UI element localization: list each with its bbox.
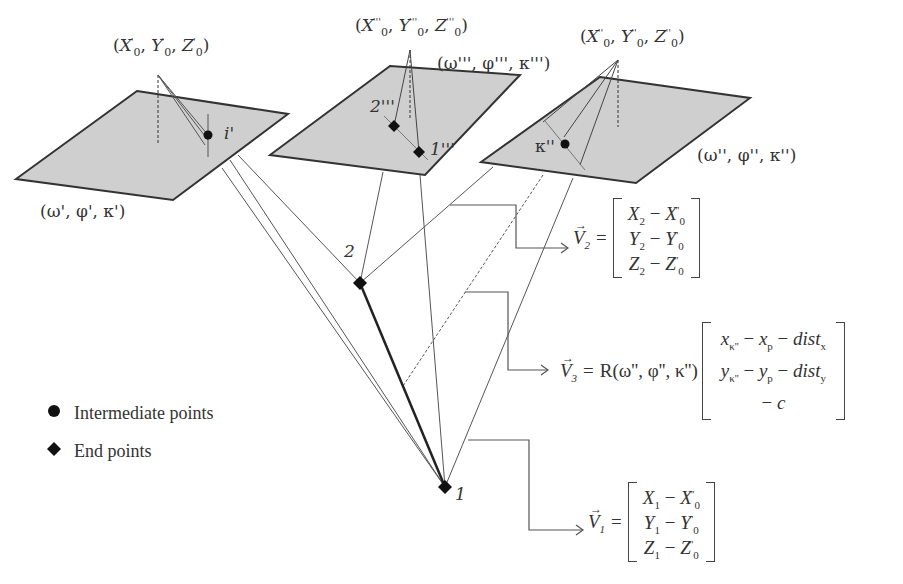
image-point-kappa-label: κ'' [535,138,555,155]
right-image-plane [481,77,750,183]
legend-intermediate-points: Intermediate points [46,403,213,424]
diagram-canvas: (X'0, Y'0, Z'0) (X'''0, Y'''0, Z'''0) (X… [0,0,903,584]
vector-v2-symbol: →V2 [573,227,590,249]
leader-v1 [468,440,583,530]
vector-v3-symbol: →V3 [560,360,577,382]
left-projection-center-label: (X'0, Y'0, Z'0) [113,37,209,54]
image-point-1-triple-prime-label: 1''' [430,141,455,158]
right-orientation-label: (ω'', φ'', κ'') [697,147,796,164]
intermediate-point-i-prime [204,131,213,140]
middle-projection-center-label: (X'''0, Y'''0, Z'''0) [355,17,468,34]
end-point-1 [438,480,452,494]
equation-v3: →V3 = R(ω'', φ'', κ'') xκ'' − xp − distx… [560,322,845,420]
vector-v1-symbol: →V1 [588,511,605,533]
leader-v3 [465,292,548,370]
object-point-2-label: 2 [344,243,355,260]
right-projection-center-label: (X''0, Y''0, Z''0) [580,28,685,45]
middle-orientation-label: (ω''', φ''', κ''') [437,55,550,72]
equation-v2: →V2 = X2 − X''0 Y2 − Y''0 Z2 − Z''0 [573,198,700,278]
legend-end-points: End points [46,441,152,462]
diagram-graphics [0,0,903,584]
object-point-1-label: 1 [455,486,466,503]
left-orientation-label: (ω', φ', κ') [40,203,125,220]
image-point-2-triple-prime-label: 2''' [370,98,395,115]
image-point-i-prime-label: i' [224,125,234,142]
rotation-matrix-label: R(ω'', φ'', κ'') [600,360,698,382]
intermediate-point-kappa [561,140,570,149]
left-image-plane [16,91,288,200]
equation-v1: →V1 = X1 − X''0 Y1 − Y''0 Z1 − Z''0 [588,482,715,562]
